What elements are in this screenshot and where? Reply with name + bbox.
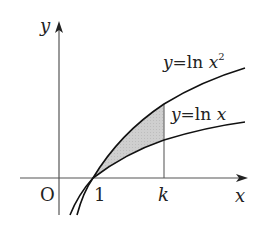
tick-label-one: 1 — [94, 186, 105, 204]
eq-fn: ln — [195, 104, 211, 124]
x-axis-label: x — [235, 187, 245, 205]
eq-sign: = — [173, 52, 187, 72]
eq-var: x — [209, 52, 219, 72]
eq-exp: 2 — [218, 51, 224, 62]
eq-var: x — [217, 104, 227, 124]
eq-fn: ln — [187, 52, 203, 72]
eq-lhs: y — [163, 52, 173, 72]
eq-lhs: y — [171, 104, 181, 124]
tick-label-k: k — [158, 186, 169, 204]
shaded-region — [93, 104, 164, 178]
y-axis-label: y — [40, 17, 50, 35]
origin-label: O — [40, 186, 55, 204]
graph-figure: y x O 1 k y=ln x2 y=ln x — [0, 0, 265, 232]
label-ln-x: y=ln x — [171, 106, 226, 123]
eq-sign: = — [181, 104, 195, 124]
label-ln-x-squared: y=ln x2 — [163, 52, 225, 71]
